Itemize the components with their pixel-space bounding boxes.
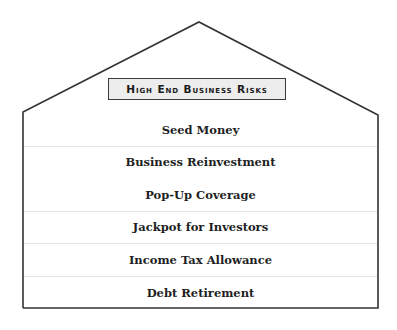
house-row-pop-up-coverage: Pop-Up Coverage bbox=[24, 179, 377, 212]
house-row-income-tax-allowance: Income Tax Allowance bbox=[24, 244, 377, 277]
row-label: Jackpot for Investors bbox=[133, 220, 268, 234]
house-row-debt-retirement: Debt Retirement bbox=[24, 277, 377, 310]
diagram-title-text: High End Business Risks bbox=[126, 83, 267, 95]
house-row-seed-money: Seed Money bbox=[24, 114, 377, 147]
house-rows: Seed Money Business Reinvestment Pop-Up … bbox=[24, 114, 377, 309]
row-label: Business Reinvestment bbox=[125, 155, 275, 169]
house-row-business-reinvestment: Business Reinvestment bbox=[24, 147, 377, 180]
row-label: Seed Money bbox=[162, 123, 240, 137]
row-label: Pop-Up Coverage bbox=[145, 188, 256, 202]
house-row-jackpot-for-investors: Jackpot for Investors bbox=[24, 212, 377, 245]
row-label: Income Tax Allowance bbox=[129, 253, 272, 267]
diagram-title: High End Business Risks bbox=[108, 78, 286, 100]
row-label: Debt Retirement bbox=[147, 286, 255, 300]
